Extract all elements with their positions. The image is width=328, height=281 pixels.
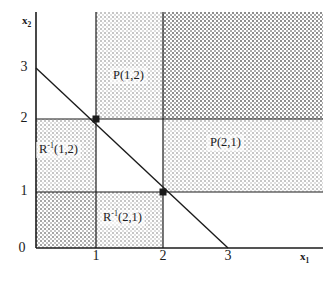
tick-x-2: 2: [155, 248, 171, 264]
x-axis-label-subscript: 1: [306, 256, 310, 265]
tick-y-3: 3: [16, 59, 32, 75]
preference-regions-diagram: x2 x1 0 1 2 3 1 2 3 P(1,2) P(2,1) R-1(1,…: [0, 0, 328, 281]
region-p12-p21-overlap-fill: [163, 12, 323, 119]
region-p12-fill: [96, 12, 163, 119]
point-marker-2-1: [160, 189, 167, 196]
point-marker-1-2: [93, 116, 100, 123]
tick-x-1: 1: [88, 248, 104, 264]
y-axis-label: x2: [22, 14, 31, 29]
region-label-rinv12-superscript: -1: [47, 141, 54, 150]
region-rinv12-rinv21-overlap-fill: [36, 192, 96, 248]
region-label-rinv12: R-1(1,2): [36, 142, 81, 158]
region-p21-fill: [163, 119, 323, 192]
region-label-rinv12-tail: (1,2): [54, 142, 78, 156]
y-axis-label-subscript: 2: [28, 20, 32, 29]
tick-y-2: 2: [16, 110, 32, 126]
tick-x-3: 3: [220, 248, 236, 264]
region-label-rinv21-tail: (2,1): [118, 210, 142, 224]
region-label-rinv21: R-1(2,1): [100, 210, 145, 226]
tick-origin: 0: [14, 240, 30, 256]
region-label-p21: P(2,1): [207, 135, 244, 151]
region-label-rinv21-superscript: -1: [111, 209, 118, 218]
x-axis-label: x1: [300, 250, 309, 265]
tick-y-1: 1: [16, 183, 32, 199]
region-label-p12: P(1,2): [110, 68, 147, 84]
